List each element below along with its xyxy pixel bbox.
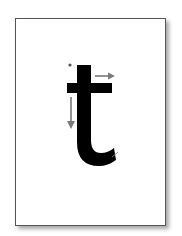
stage: t xyxy=(0,0,182,236)
arrow-down-icon xyxy=(67,97,75,129)
letter-t-diagram xyxy=(0,0,182,236)
start-dot-icon xyxy=(68,63,71,66)
arrow-right-icon xyxy=(95,73,115,80)
letter-t-crossbar xyxy=(67,83,112,93)
letter-t-stem xyxy=(77,65,116,166)
